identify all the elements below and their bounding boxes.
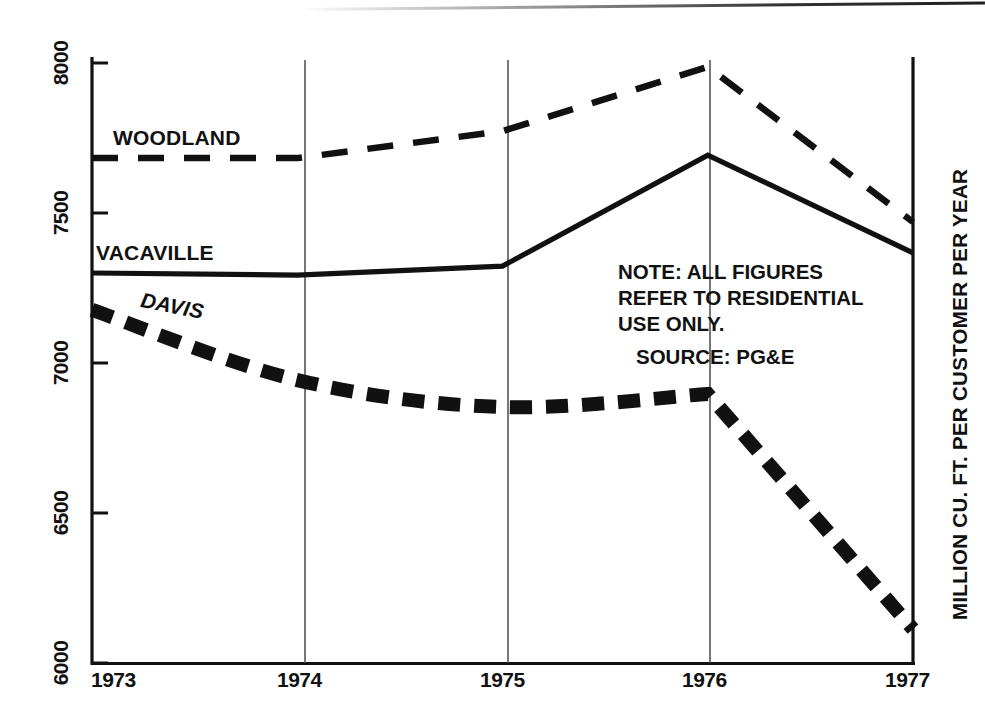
source-annotation: SOURCE: PG&E bbox=[636, 345, 794, 369]
y-tick-label-7000: 7000 bbox=[49, 335, 73, 391]
y-tick-label-7500: 7500 bbox=[49, 185, 73, 241]
x-tick-label-1976: 1976 bbox=[682, 668, 727, 692]
note-line-2: REFER TO RESIDENTIAL bbox=[618, 285, 918, 311]
chart-plot-area bbox=[0, 0, 985, 715]
x-tick-label-1975: 1975 bbox=[480, 668, 525, 692]
y-tick-label-6000: 6000 bbox=[49, 635, 73, 691]
note-line-3: USE ONLY. bbox=[618, 311, 918, 337]
note-line-1: NOTE: ALL FIGURES bbox=[618, 259, 918, 285]
y-axis-title: MILLION CU. FT. PER CUSTOMER PER YEAR bbox=[948, 169, 972, 620]
x-tick-label-1977: 1977 bbox=[885, 668, 930, 692]
x-tick-label-1973: 1973 bbox=[91, 668, 136, 692]
y-tick-label-6500: 6500 bbox=[49, 485, 73, 541]
note-annotation: NOTE: ALL FIGURES REFER TO RESIDENTIAL U… bbox=[618, 259, 918, 337]
x-tick-label-1974: 1974 bbox=[277, 668, 322, 692]
y-axis-ticks bbox=[92, 63, 108, 663]
series-line-vacaville bbox=[92, 155, 913, 275]
series-label-vacaville: VACAVILLE bbox=[96, 241, 214, 265]
y-tick-label-8000: 8000 bbox=[49, 35, 73, 91]
series-label-woodland: WOODLAND bbox=[113, 126, 241, 150]
chart-page: 8000 7500 7000 6500 6000 1973 1974 1975 … bbox=[0, 0, 985, 715]
